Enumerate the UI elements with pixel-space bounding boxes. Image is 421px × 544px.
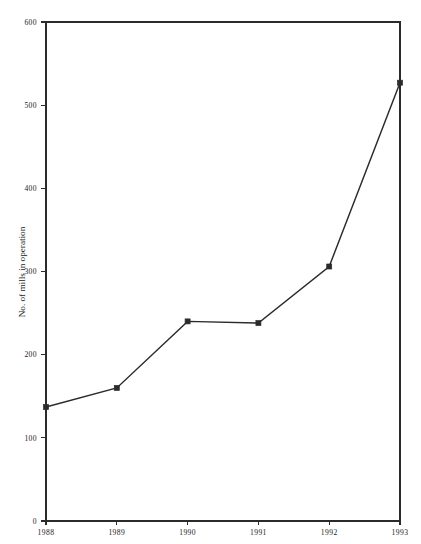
data-point-marker — [44, 405, 49, 410]
y-tick-label: 0 — [33, 517, 37, 526]
y-tick-label: 500 — [24, 101, 37, 110]
line-chart: 0100200300400500600 19881989199019911992… — [0, 0, 421, 544]
x-tick-label: 1993 — [392, 528, 409, 537]
x-tick-label: 1989 — [108, 528, 125, 537]
data-point-marker — [114, 385, 119, 390]
y-tick-label: 600 — [24, 18, 37, 27]
data-point-marker — [185, 319, 190, 324]
x-tick-label: 1990 — [179, 528, 196, 537]
x-tick-label: 1988 — [38, 528, 55, 537]
y-tick-label: 200 — [24, 350, 37, 359]
y-axis-title: No. of mills in operation — [17, 226, 27, 317]
x-tick-label: 1991 — [250, 528, 267, 537]
data-point-marker — [327, 264, 332, 269]
x-tick-label: 1992 — [321, 528, 338, 537]
data-point-marker — [398, 80, 403, 85]
chart-canvas: 0100200300400500600 19881989199019911992… — [0, 0, 421, 544]
data-point-marker — [256, 321, 261, 326]
y-tick-label: 400 — [24, 184, 37, 193]
chart-background — [0, 0, 421, 544]
y-tick-label: 100 — [24, 434, 37, 443]
